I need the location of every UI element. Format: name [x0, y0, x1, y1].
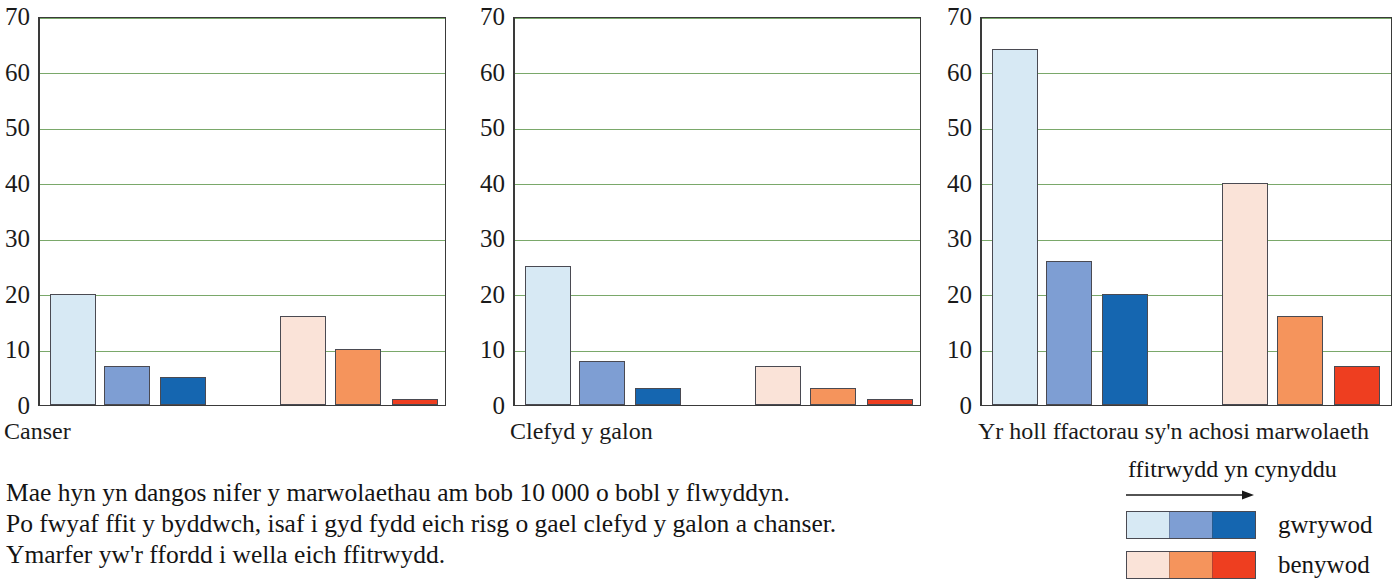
- bar-gwrywod-ffitrwydd-uchel: [635, 388, 681, 405]
- y-tick-label-10: 10: [940, 337, 972, 362]
- chart-panel-canser: 706050403020100 Canser: [0, 0, 460, 440]
- plot-area-canser: [38, 17, 446, 406]
- legend-swatch-benywod-high: [1212, 552, 1255, 578]
- gridline-40: [982, 184, 1391, 185]
- right-arrow-icon: [1126, 489, 1254, 501]
- panel-caption-canser: Canser: [4, 417, 71, 445]
- bar-benywod-ffitrwydd-uchel: [1334, 366, 1380, 405]
- legend-swatches-gwrywod: [1126, 511, 1256, 539]
- y-tick-label-50: 50: [940, 115, 972, 140]
- bar-benywod-ffitrwydd-canolig: [810, 388, 856, 405]
- bar-benywod-ffitrwydd-uchel: [867, 399, 913, 405]
- gridline-50: [982, 129, 1391, 130]
- plot-area-yr-holl-ffactorau: [980, 17, 1392, 406]
- y-tick-label-0: 0: [940, 393, 972, 418]
- bar-benywod-ffitrwydd-isel: [1222, 183, 1268, 405]
- y-tick-label-70: 70: [0, 4, 30, 29]
- gridline-60: [982, 73, 1391, 74]
- legend-swatch-gwrywod-mid: [1169, 512, 1212, 538]
- panel-caption-yr-holl-ffactorau: Yr holl ffactorau sy'n achosi marwolaeth: [978, 417, 1369, 445]
- bar-gwrywod-ffitrwydd-canolig: [104, 366, 150, 405]
- gridline-20: [982, 295, 1391, 296]
- y-tick-label-50: 50: [0, 115, 30, 140]
- gridline-20: [40, 295, 445, 296]
- y-tick-label-40: 40: [474, 171, 505, 196]
- y-tick-label-60: 60: [940, 60, 972, 85]
- gridline-70: [515, 18, 920, 19]
- bar-gwrywod-ffitrwydd-canolig: [1046, 261, 1092, 405]
- gridline-20: [515, 295, 920, 296]
- legend-swatch-benywod-low: [1127, 552, 1169, 578]
- y-tick-label-60: 60: [474, 60, 505, 85]
- paragraph-line-1: Mae hyn yn dangos nifer y marwolaethau a…: [6, 477, 836, 508]
- paragraph-line-3: Ymarfer yw'r ffordd i wella eich ffitrwy…: [6, 539, 836, 570]
- y-tick-label-30: 30: [474, 226, 505, 251]
- y-tick-label-30: 30: [0, 226, 30, 251]
- legend-row-benywod: benywod: [1126, 551, 1370, 579]
- bar-gwrywod-ffitrwydd-isel: [50, 294, 96, 405]
- y-tick-label-20: 20: [940, 282, 972, 307]
- y-tick-label-70: 70: [940, 4, 972, 29]
- legend-label-benywod: benywod: [1278, 551, 1370, 579]
- y-tick-label-10: 10: [0, 337, 30, 362]
- bar-gwrywod-ffitrwydd-uchel: [160, 377, 206, 405]
- legend-label-gwrywod: gwrywod: [1278, 511, 1372, 539]
- gridline-70: [982, 18, 1391, 19]
- legend-swatch-gwrywod-high: [1212, 512, 1255, 538]
- y-tick-label-70: 70: [474, 4, 505, 29]
- explanatory-paragraph: Mae hyn yn dangos nifer y marwolaethau a…: [6, 477, 836, 570]
- gridline-10: [982, 351, 1391, 352]
- gridline-50: [515, 129, 920, 130]
- chart-panel-clefyd-y-galon: 706050403020100 Clefyd y galon: [466, 0, 926, 440]
- gridline-40: [40, 184, 445, 185]
- plot-area-clefyd-y-galon: [513, 17, 921, 406]
- legend-swatches-benywod: [1126, 551, 1256, 579]
- gridline-40: [515, 184, 920, 185]
- legend-swatch-benywod-mid: [1169, 552, 1212, 578]
- gridline-30: [40, 240, 445, 241]
- y-tick-label-30: 30: [940, 226, 972, 251]
- bar-gwrywod-ffitrwydd-isel: [992, 49, 1038, 405]
- gridline-70: [40, 18, 445, 19]
- y-tick-label-50: 50: [474, 115, 505, 140]
- y-tick-label-0: 0: [474, 393, 505, 418]
- y-tick-label-20: 20: [0, 282, 30, 307]
- bar-benywod-ffitrwydd-uchel: [392, 399, 438, 405]
- legend-title: ffitrwydd yn cynyddu: [1128, 455, 1337, 483]
- y-tick-label-40: 40: [0, 171, 30, 196]
- y-tick-label-40: 40: [940, 171, 972, 196]
- gridline-50: [40, 129, 445, 130]
- y-tick-label-20: 20: [474, 282, 505, 307]
- gridline-30: [515, 240, 920, 241]
- chart-panel-yr-holl-ffactorau: 706050403020100 Yr holl ffactorau sy'n a…: [932, 0, 1396, 440]
- bar-benywod-ffitrwydd-isel: [280, 316, 326, 405]
- bar-gwrywod-ffitrwydd-isel: [525, 266, 571, 405]
- gridline-10: [40, 351, 445, 352]
- y-tick-label-0: 0: [0, 393, 30, 418]
- bar-benywod-ffitrwydd-canolig: [1277, 316, 1323, 405]
- y-tick-label-10: 10: [474, 337, 505, 362]
- gridline-10: [515, 351, 920, 352]
- y-tick-label-60: 60: [0, 60, 30, 85]
- paragraph-line-2: Po fwyaf ffit y byddwch, isaf i gyd fydd…: [6, 508, 836, 539]
- gridline-60: [40, 73, 445, 74]
- gridline-60: [515, 73, 920, 74]
- panel-caption-clefyd-y-galon: Clefyd y galon: [510, 417, 653, 445]
- bar-gwrywod-ffitrwydd-canolig: [579, 361, 625, 405]
- legend-row-gwrywod: gwrywod: [1126, 511, 1372, 539]
- bar-benywod-ffitrwydd-canolig: [335, 349, 381, 405]
- gridline-30: [982, 240, 1391, 241]
- bar-gwrywod-ffitrwydd-uchel: [1102, 294, 1148, 405]
- legend-swatch-gwrywod-low: [1127, 512, 1169, 538]
- bar-benywod-ffitrwydd-isel: [755, 366, 801, 405]
